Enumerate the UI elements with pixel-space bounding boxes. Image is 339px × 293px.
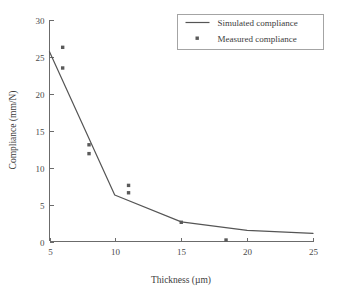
legend-entry-label: Simulated compliance — [218, 18, 298, 28]
y-tick-label: 15 — [36, 127, 46, 137]
y-tick-label: 0 — [40, 238, 45, 248]
measured-compliance-points — [61, 46, 228, 242]
x-tick-label: 15 — [177, 247, 187, 257]
measured-data-point — [180, 221, 183, 224]
y-tick-label: 25 — [36, 53, 46, 63]
x-axis-title: Thickness (µm) — [151, 275, 211, 286]
x-axis-ticks: 510152025 — [48, 238, 318, 257]
x-tick-label: 20 — [243, 247, 253, 257]
x-tick-label: 25 — [309, 247, 319, 257]
data-series-layer — [50, 46, 314, 242]
measured-data-point — [61, 66, 64, 69]
y-tick-label: 20 — [36, 90, 46, 100]
chart-legend: Simulated complianceMeasured compliance — [178, 15, 324, 50]
y-axis-title: Compliance (mm/N) — [8, 91, 19, 170]
measured-data-point — [127, 184, 130, 187]
y-tick-label: 10 — [36, 164, 46, 174]
y-tick-label: 30 — [36, 16, 46, 26]
legend-marker-swatch — [196, 37, 199, 40]
compliance-vs-thickness-chart: 510152025 051015202530 Thickness (µm) Co… — [0, 0, 339, 293]
y-axis-ticks: 051015202530 — [36, 16, 54, 248]
x-tick-label: 10 — [111, 247, 121, 257]
chart-figure: 510152025 051015202530 Thickness (µm) Co… — [0, 0, 339, 293]
simulated-compliance-line — [50, 52, 314, 234]
measured-data-point — [87, 143, 90, 146]
legend-entry-label: Measured compliance — [218, 34, 297, 44]
measured-data-point — [87, 152, 90, 155]
measured-data-point — [61, 46, 64, 49]
plot-axes — [50, 20, 314, 242]
measured-data-point — [224, 238, 227, 241]
measured-data-point — [127, 191, 130, 194]
y-tick-label: 5 — [40, 201, 45, 211]
x-tick-label: 5 — [48, 247, 53, 257]
